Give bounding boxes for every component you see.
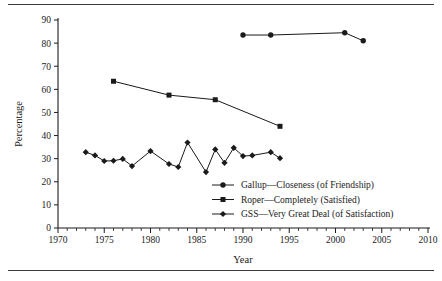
data-point-marker	[167, 93, 172, 98]
data-point-marker	[212, 146, 218, 152]
y-axis: 0102030405060708090	[42, 15, 59, 233]
y-tick-label: 50	[42, 108, 52, 118]
data-point-marker	[361, 38, 366, 43]
data-point-marker	[221, 160, 227, 166]
data-point-marker	[240, 32, 245, 37]
data-point-marker	[220, 182, 225, 187]
legend-entry: Roper—Completely (Satisfied)	[212, 195, 360, 206]
x-tick-label: 2010	[419, 235, 438, 245]
series-1	[240, 30, 366, 43]
data-point-marker	[184, 139, 190, 145]
data-series-layer	[83, 30, 366, 175]
y-tick-label: 40	[42, 131, 52, 141]
y-tick-label: 80	[42, 39, 52, 49]
x-tick-label: 1975	[95, 235, 114, 245]
y-tick-label: 90	[42, 15, 52, 25]
data-point-marker	[92, 152, 98, 158]
y-axis-title: Percentage	[13, 101, 24, 147]
x-tick-label: 2000	[326, 235, 345, 245]
x-tick-label: 1990	[234, 235, 253, 245]
series-line	[114, 81, 281, 126]
legend-label: GSS—Very Great Deal (of Satisfaction)	[241, 209, 394, 220]
y-tick-label: 0	[46, 223, 51, 233]
x-tick-label: 1995	[280, 235, 299, 245]
data-point-marker	[278, 124, 283, 129]
data-point-marker	[220, 211, 226, 217]
legend-entry: GSS—Very Great Deal (of Satisfaction)	[212, 209, 394, 220]
data-point-marker	[101, 158, 107, 164]
x-axis-title: Year	[233, 254, 253, 265]
series-3	[83, 139, 283, 175]
data-point-marker	[342, 30, 347, 35]
data-point-marker	[83, 149, 89, 155]
y-tick-label: 70	[42, 62, 52, 72]
data-point-marker	[203, 169, 209, 175]
y-tick-label: 30	[42, 154, 52, 164]
series-line	[86, 142, 280, 172]
data-point-marker	[249, 152, 255, 158]
series-2	[111, 79, 283, 129]
figure-container: 0102030405060708090 19701975198019851990…	[0, 0, 442, 281]
data-point-marker	[268, 149, 274, 155]
data-point-marker	[268, 32, 273, 37]
x-axis: 197019751980198519901995200020052010	[49, 228, 438, 245]
data-point-marker	[111, 79, 116, 84]
data-point-marker	[166, 161, 172, 167]
data-point-marker	[175, 164, 181, 170]
data-point-marker	[213, 97, 218, 102]
y-tick-label: 60	[42, 85, 52, 95]
data-point-marker	[221, 197, 226, 202]
legend-entry: Gallup—Closeness (of Friendship)	[212, 180, 374, 191]
x-tick-label: 2005	[372, 235, 391, 245]
y-tick-label: 10	[42, 200, 52, 210]
x-tick-label: 1970	[49, 235, 68, 245]
legend-label: Roper—Completely (Satisfied)	[241, 195, 360, 206]
y-tick-label: 20	[42, 177, 52, 187]
chart-legend: Gallup—Closeness (of Friendship)Roper—Co…	[212, 180, 394, 220]
x-tick-label: 1980	[141, 235, 160, 245]
line-chart: 0102030405060708090 19701975198019851990…	[0, 0, 442, 281]
data-point-marker	[277, 155, 283, 161]
legend-label: Gallup—Closeness (of Friendship)	[241, 180, 374, 191]
x-tick-label: 1985	[187, 235, 206, 245]
data-point-marker	[110, 158, 116, 164]
